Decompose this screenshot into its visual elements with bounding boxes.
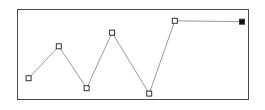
polyline-path[interactable] [29, 21, 242, 94]
vertex-handle[interactable] [26, 76, 31, 81]
drawing-canvas[interactable] [0, 0, 265, 110]
vertex-handle[interactable] [110, 30, 115, 35]
end-vertex-handle[interactable] [240, 19, 245, 24]
vertex-handle[interactable] [84, 86, 89, 91]
vertex-handle[interactable] [172, 18, 177, 23]
vertex-handle[interactable] [56, 44, 61, 49]
vertex-handles [26, 18, 244, 96]
vertex-handle[interactable] [147, 91, 152, 96]
